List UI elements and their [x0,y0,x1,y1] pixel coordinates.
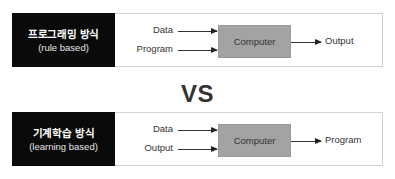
computer-label: Computer [234,36,276,47]
computer-box: Computer [218,25,291,58]
arrow-right-icon [178,50,217,51]
learning-based-subtitle: (learning based) [29,140,98,153]
output-label: Output [325,35,354,46]
vs-separator: VS [0,80,395,108]
learning-based-flow: Data Output Computer Program [115,112,383,166]
rule-based-flow: Data Program Computer Output [115,13,383,67]
learning-based-panel: 기계학습 방식 (learning based) Data Output Com… [12,112,383,166]
input-label-output: Output [113,142,173,153]
input-label-program: Program [113,43,173,54]
arrow-right-icon [291,42,321,43]
computer-box: Computer [218,124,291,157]
rule-based-label-box: 프로그래밍 방식 (rule based) [12,13,115,67]
rule-based-subtitle: (rule based) [38,41,89,54]
rule-based-panel: 프로그래밍 방식 (rule based) Data Program Compu… [12,13,383,67]
output-label-program: Program [325,134,361,145]
arrow-right-icon [178,130,217,131]
rule-based-title: 프로그래밍 방식 [28,27,99,41]
arrow-right-icon [178,149,217,150]
arrow-right-icon [291,141,321,142]
learning-based-label-box: 기계학습 방식 (learning based) [12,112,115,166]
learning-based-title: 기계학습 방식 [33,126,95,140]
input-label-data: Data [113,24,173,35]
arrow-right-icon [178,31,217,32]
input-label-data: Data [113,123,173,134]
computer-label: Computer [234,135,276,146]
